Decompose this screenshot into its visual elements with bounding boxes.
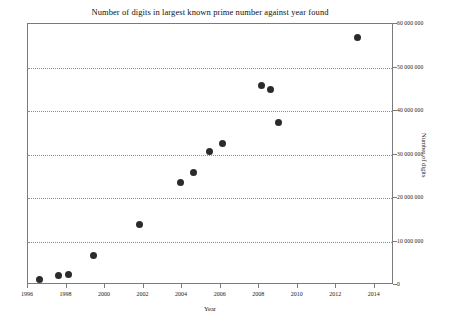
x-tick-mark [66,284,67,288]
data-point [90,252,97,259]
x-tick-label: 2002 [137,291,149,297]
chart-title: Number of digits in largest known prime … [0,7,420,17]
x-tick-label: 2012 [329,291,341,297]
x-tick-label: 2004 [175,291,187,297]
x-tick-label: 2010 [291,291,303,297]
x-tick-label: 1998 [60,291,72,297]
data-point [354,34,361,41]
data-point [258,82,265,89]
x-tick-label: 2008 [252,291,264,297]
data-point [206,148,213,155]
data-point [65,271,72,278]
data-point [177,179,184,186]
y-tick-label: 40 000 000 [397,107,423,113]
gridline [28,242,392,243]
y-tick-label: 20 000 000 [397,194,423,200]
y-tick-label: 0 [397,281,400,287]
x-tick-mark [374,284,375,288]
x-tick-label: 2006 [214,291,226,297]
data-point [190,169,197,176]
x-tick-mark [104,284,105,288]
x-tick-mark [297,284,298,288]
x-axis-title: Year [27,305,393,312]
x-tick-mark [143,284,144,288]
y-tick-label: 50 000 000 [397,64,423,70]
x-tick-mark [27,284,28,288]
gridline [28,68,392,69]
data-point [267,86,274,93]
data-point [55,272,62,279]
y-tick-label: 30 000 000 [397,151,423,157]
y-tick-label: 10 000 000 [397,238,423,244]
gridline [28,111,392,112]
data-point [219,140,226,147]
gridline [28,198,392,199]
x-tick-label: 1996 [21,291,33,297]
plot-area [27,23,393,284]
x-tick-mark [258,284,259,288]
data-point [136,221,143,228]
y-axis-title: Number of digits [421,133,428,177]
x-tick-mark [335,284,336,288]
y-tick-label: 60 000 000 [397,20,423,26]
x-tick-label: 2000 [98,291,110,297]
x-tick-label: 2014 [368,291,380,297]
x-tick-mark [181,284,182,288]
x-tick-mark [220,284,221,288]
scatter-chart: Number of digits in largest known prime … [0,0,458,323]
data-point [275,119,282,126]
data-point [36,276,43,283]
